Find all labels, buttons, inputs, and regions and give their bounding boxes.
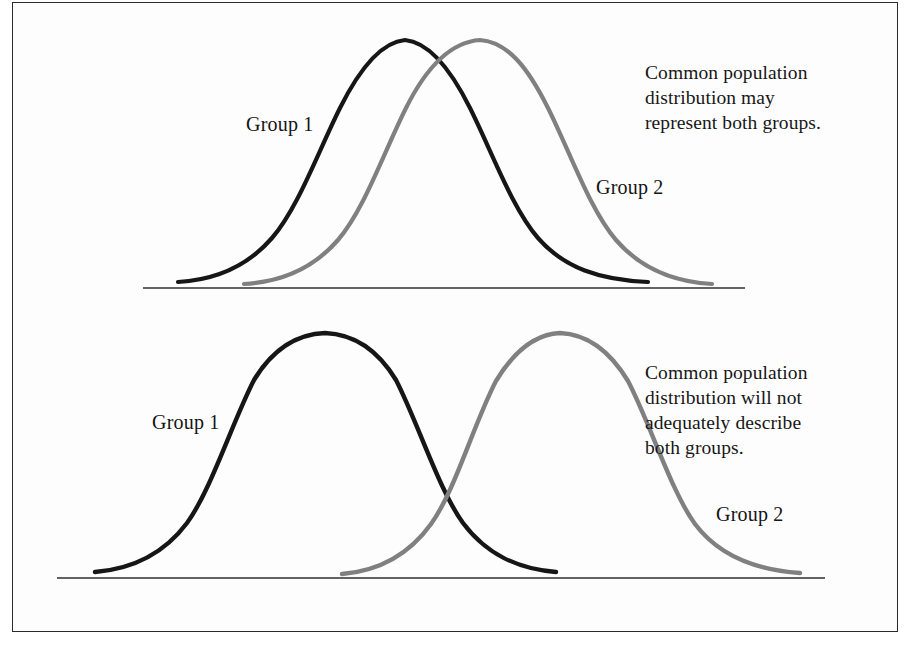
bottom-panel-group2-label: Group 2 [716, 503, 784, 526]
bottom-panel-group1-curve [95, 333, 556, 572]
figure-root: Group 1 Group 2 Common population distri… [0, 0, 910, 648]
bottom-panel-group1-label: Group 1 [152, 411, 220, 434]
bottom-panel-caption: Common population distribution will not … [645, 360, 890, 460]
top-panel-caption: Common population distribution may repre… [645, 60, 885, 135]
top-panel-group1-curve [178, 40, 648, 282]
top-panel-group2-label: Group 2 [596, 176, 664, 199]
top-panel-group1-label: Group 1 [246, 113, 314, 136]
